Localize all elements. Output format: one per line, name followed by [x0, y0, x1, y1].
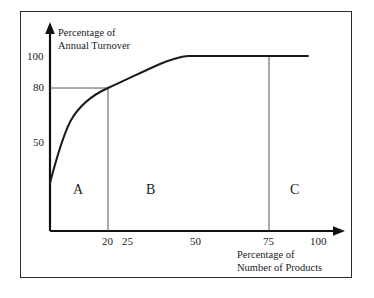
abc-analysis-chart-figure: Percentage of Annual Turnover Percentage… [0, 0, 374, 298]
x-axis-arrowhead [333, 226, 345, 236]
region-label-b: B [146, 183, 155, 197]
y-axis-arrowhead [45, 22, 55, 34]
x-tick-label-20: 20 [102, 236, 113, 247]
y-tick-label-100: 100 [27, 51, 44, 62]
region-label-a: A [73, 183, 83, 197]
y-tick-label-50: 50 [33, 137, 44, 148]
x-tick-label-100: 100 [310, 236, 327, 247]
y-tick-label-80: 80 [33, 82, 44, 93]
x-tick-label-50: 50 [190, 236, 201, 247]
x-axis-title: Percentage of Number of Products [237, 249, 322, 274]
region-label-c: C [290, 183, 299, 197]
y-axis-title: Percentage of Annual Turnover [58, 27, 130, 52]
x-tick-label-25: 25 [122, 236, 133, 247]
x-tick-label-75: 75 [263, 236, 274, 247]
